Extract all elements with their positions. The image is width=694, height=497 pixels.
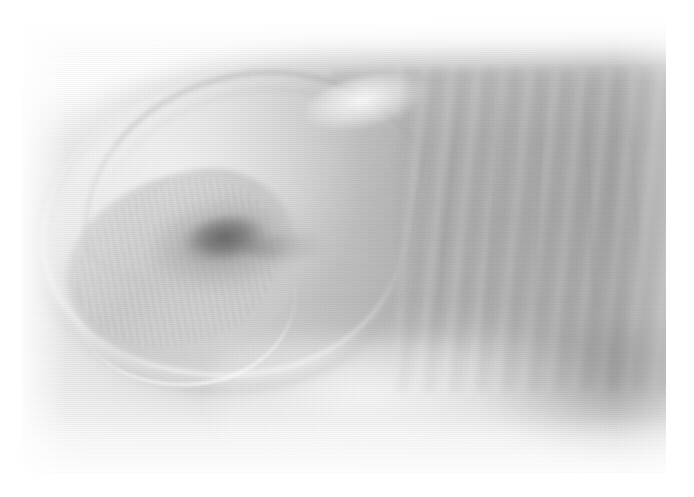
corner-shadow bbox=[421, 320, 666, 473]
screenshot-canvas bbox=[0, 0, 694, 497]
clinical-photograph bbox=[22, 22, 666, 473]
